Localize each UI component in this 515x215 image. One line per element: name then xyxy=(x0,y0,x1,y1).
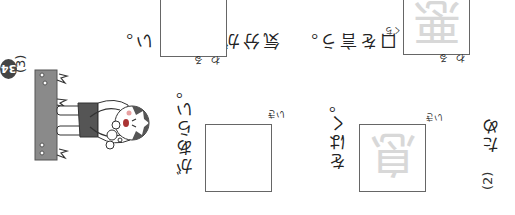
question-2-answer-box[interactable] xyxy=(205,124,272,192)
question-3-line1-after: を言う。 xyxy=(298,30,377,55)
question-2-kanji-reading: いき xyxy=(425,112,443,121)
question-3-answer-reading: わる xyxy=(186,54,220,67)
question-3-kanji-trace: 悪 xyxy=(404,0,469,54)
question-2-line2-after: があらい。 xyxy=(172,80,197,175)
question-3-line2-before: 気分が xyxy=(220,30,280,55)
question-3-kanji-reading: わる xyxy=(431,52,465,65)
question-3-answer-box[interactable] xyxy=(160,0,227,57)
question-2-number: (2) xyxy=(480,172,495,190)
boy-panting-icon xyxy=(30,65,160,165)
question-3-line2-after: い。 xyxy=(113,30,153,55)
question-2-answer-reading: いき xyxy=(267,108,285,121)
question-3-kanji-box: 悪 xyxy=(403,0,470,55)
question-2-line1-after: をはく。 xyxy=(325,94,350,170)
worksheet-page: (2) ため 息 いき をはく。 いき があらい。 (3) 悪 わる 口 くち … xyxy=(0,0,515,215)
question-2-kanji-box: 息 xyxy=(359,124,426,192)
page-number-badge: 34 xyxy=(0,59,17,79)
question-2-kanji-trace: 息 xyxy=(360,125,425,191)
panting-boy-illustration xyxy=(30,65,160,165)
question-2-prefix: ため xyxy=(483,117,500,153)
question-3-mouth-reading: くち xyxy=(385,26,401,37)
